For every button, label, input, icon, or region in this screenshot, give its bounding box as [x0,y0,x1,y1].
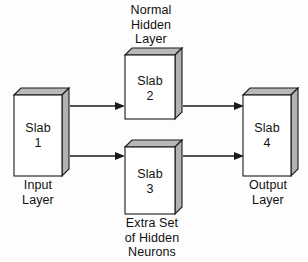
slab-2-side-face [175,48,182,119]
diagram-canvas: Normal Hidden Layer Slab 2 Slab 1 Input … [0,0,308,262]
slab-1-top-face [14,88,69,95]
slab-3-top-face [125,140,182,147]
slab-1-front-face [14,95,62,176]
edge-slab1-to-slab2 [70,100,126,112]
node-slab-2[interactable]: Slab 2 [125,48,183,120]
edge-slab2-to-slab4-arrowhead [234,102,244,110]
slab-4-top-face [243,88,298,95]
node-slab-3[interactable]: Slab 3 [125,140,183,215]
edge-slab3-to-slab4 [183,150,245,162]
slab-3-front-face [125,147,175,214]
node-slab-4[interactable]: Slab 4 [243,88,299,177]
node-slab-1[interactable]: Slab 1 [14,88,70,177]
slab-2-front-face [125,55,175,119]
caption-output-layer: Output Layer [240,178,296,207]
slab-3-side-face [175,140,182,214]
caption-extra-hidden-neurons: Extra Set of Hidden Neurons [110,216,194,260]
edge-slab2-to-slab4 [183,100,245,112]
slab-1-side-face [62,88,69,176]
edge-slab1-to-slab2-arrowhead [115,102,125,110]
caption-normal-hidden-layer: Normal Hidden Layer [112,3,190,47]
caption-input-layer: Input Layer [12,178,64,207]
slab-4-front-face [243,95,291,176]
slab-2-top-face [125,48,182,55]
slab-4-side-face [291,88,298,176]
edge-slab3-to-slab4-arrowhead [234,152,244,160]
edge-slab1-to-slab3-arrowhead [115,152,125,160]
edge-slab1-to-slab3 [70,150,126,162]
